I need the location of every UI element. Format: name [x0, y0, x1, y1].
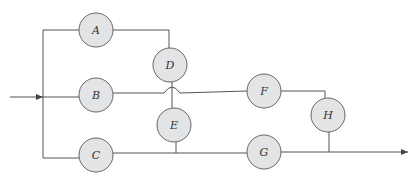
svg-text:E: E	[169, 119, 178, 132]
edge-F-H	[281, 91, 325, 98]
svg-text:G: G	[260, 146, 269, 159]
svg-text:C: C	[92, 149, 101, 162]
edge-B-F	[113, 87, 247, 93]
node-B: B	[79, 78, 113, 112]
diagram-canvas: A B C D E F G H	[0, 0, 420, 179]
svg-text:A: A	[91, 24, 100, 37]
node-H: H	[311, 98, 345, 132]
node-G: G	[247, 135, 281, 169]
node-C: C	[79, 138, 113, 172]
svg-text:B: B	[91, 89, 100, 102]
svg-text:D: D	[165, 59, 175, 72]
node-A: A	[79, 13, 113, 47]
node-D: D	[153, 48, 187, 82]
svg-text:H: H	[322, 109, 333, 122]
network-diagram: A B C D E F G H	[0, 0, 420, 179]
node-F: F	[247, 74, 281, 108]
edge-A-D	[113, 30, 169, 48]
svg-text:F: F	[259, 85, 268, 98]
node-E: E	[157, 108, 191, 142]
